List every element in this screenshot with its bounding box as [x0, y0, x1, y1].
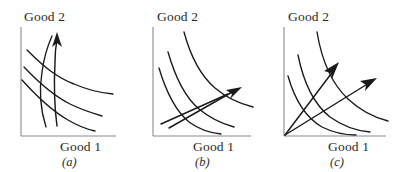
panel-b-x-axis-label: Good 1: [193, 139, 234, 155]
panel-c: Good 2 Good 1 (c): [266, 0, 400, 172]
panel-a: Good 2 Good 1 (a): [0, 0, 134, 172]
panel-a-x-axis-label: Good 1: [60, 139, 101, 155]
panel-b: Good 2 Good 1 (b): [133, 0, 267, 172]
panel-c-indifference-curve-1: [317, 32, 388, 121]
panel-a-caption: (a): [62, 155, 77, 170]
panel-c-x-axis-label: Good 1: [328, 139, 369, 155]
panel-b-indifference-curve-1: [184, 32, 253, 107]
panel-b-arrow-shaft: [169, 91, 234, 128]
panel-a-arrow-head: [52, 32, 62, 47]
panel-c-arrow-shaft-2: [285, 83, 369, 135]
panel-a-y-axis-label: Good 2: [24, 9, 65, 25]
panel-b-caption: (b): [195, 155, 210, 170]
indifference-curve-figure: Good 2 Good 1 (a) Good 2 Good 1 (b): [0, 0, 404, 172]
panel-b-y-axis-label: Good 2: [157, 9, 198, 25]
panel-a-preference-direction-curve: [40, 36, 52, 127]
panel-a-indifference-curve-2: [24, 67, 102, 116]
panel-c-y-axis-label: Good 2: [288, 9, 329, 25]
panel-c-caption: (c): [330, 155, 344, 170]
panel-c-arrow-shaft-1: [285, 70, 334, 135]
panel-c-arrow-head-2: [360, 78, 377, 91]
